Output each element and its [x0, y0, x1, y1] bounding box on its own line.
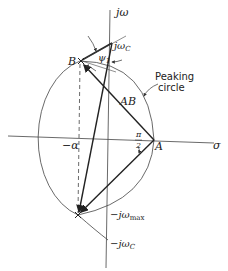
peaking-label-line1: Peaking: [155, 71, 194, 82]
peaking-label-line2: circle: [158, 82, 185, 93]
minus-alpha-label: −α: [62, 139, 79, 152]
two-label: 2: [135, 141, 141, 150]
real-axis-label: σ: [213, 139, 221, 152]
minus-jwmax-label: −jωmax: [110, 209, 144, 222]
locus-curve-lower: [78, 215, 108, 240]
imag-axis-label: jω: [113, 6, 128, 19]
pi-label: π: [135, 130, 142, 139]
diagram-svg: jω σ jωC B ψ1 AB Peaking circle π 2 A −α…: [0, 0, 228, 271]
angle-arrow-top: [88, 36, 96, 51]
ab-label: AB: [119, 95, 136, 108]
vector-a-to-b: [84, 65, 154, 140]
jwc-top-label: jωC: [112, 40, 131, 53]
minus-jwc-label: −jωC: [110, 238, 136, 251]
root-locus-diagram: jω σ jωC B ψ1 AB Peaking circle π 2 A −α…: [0, 0, 228, 271]
peaking-circle-right: [78, 61, 154, 215]
point-b-label: B: [67, 55, 76, 68]
real-axis: [8, 136, 214, 143]
angle-arrow-psi: [112, 60, 122, 62]
peaking-label-arrow: [144, 84, 158, 96]
point-a-label: A: [154, 140, 163, 153]
